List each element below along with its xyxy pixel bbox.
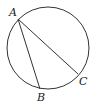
label-c: C <box>79 75 88 88</box>
label-a: A <box>8 6 17 19</box>
circle <box>7 7 89 89</box>
label-b: B <box>36 91 45 103</box>
circle-diagram: A B C <box>0 0 90 103</box>
